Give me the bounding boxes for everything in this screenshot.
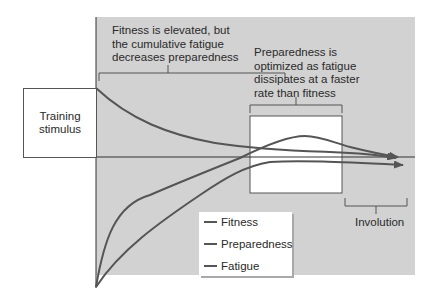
annotation-line: the cumulative fatigue: [112, 38, 239, 52]
annotation-line: rate than fitness: [254, 87, 359, 101]
legend-item-preparedness: Preparedness: [204, 237, 293, 251]
line-swatch-icon: [204, 221, 217, 223]
annotation-elevated: Fitness is elevated, but the cumulative …: [112, 24, 239, 65]
training-stimulus-box: Training stimulus: [23, 88, 97, 158]
annotation-line: Fitness is elevated, but: [112, 24, 239, 38]
preparedness-window-box: [250, 116, 342, 193]
annotation-line: decreases preparedness: [112, 51, 239, 65]
annotation-line: optimized as fatigue: [254, 60, 359, 74]
bracket-involution: [345, 198, 407, 214]
line-swatch-icon: [204, 265, 217, 267]
annotation-line: dissipates at a faster: [254, 73, 359, 87]
legend-item-fitness: Fitness: [204, 215, 258, 229]
legend-item-fatigue: Fatigue: [204, 259, 259, 273]
legend-label: Fatigue: [221, 260, 259, 272]
legend-label: Preparedness: [221, 238, 293, 250]
annotation-involution: Involution: [355, 216, 404, 230]
stimulus-label-line: stimulus: [39, 123, 81, 137]
legend-label: Fitness: [221, 216, 258, 228]
stimulus-label-line: Training: [39, 110, 81, 124]
line-swatch-icon: [204, 243, 217, 245]
annotation-optimized: Preparedness is optimized as fatigue dis…: [254, 46, 359, 100]
legend: Fitness Preparedness Fatigue: [199, 212, 292, 276]
annotation-line: Preparedness is: [254, 46, 359, 60]
